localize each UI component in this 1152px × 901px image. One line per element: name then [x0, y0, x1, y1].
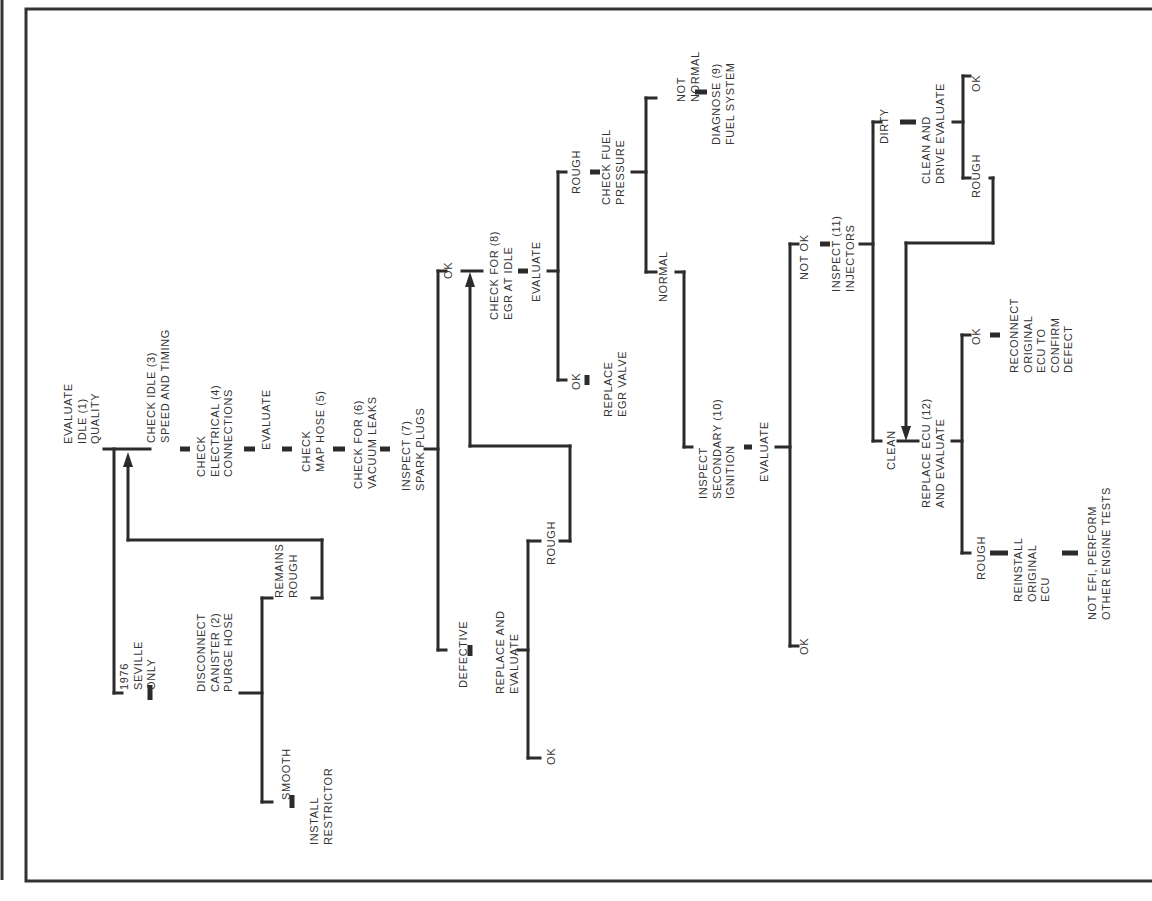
- node-label-n_smooth: SMOOTH: [280, 748, 292, 800]
- node-label-n11: INSPECT (11)INJECTORS: [830, 216, 856, 292]
- node-label-n12: REPLACE ECU (12)AND EVALUATE: [920, 398, 946, 508]
- node-label-n_rough_dirty: ROUGH: [970, 154, 982, 198]
- node-label-n_ok7: OK: [442, 262, 454, 279]
- node-label-n_notok: NOT OK: [798, 234, 810, 280]
- node-label-n_fuel: CHECK FUELPRESSURE: [600, 129, 626, 205]
- node-label-n8: CHECK FOR (8)EGR AT IDLE: [488, 231, 514, 320]
- node-label-n_eval10: EVALUATE: [758, 421, 770, 482]
- node-label-n_clean_drive: CLEAN ANDDRIVE EVALUATE: [920, 83, 946, 184]
- node-label-n_dirty: DIRTY: [878, 108, 890, 144]
- node-label-n4: CHECKELECTRICAL (4)CONNECTIONS: [195, 385, 234, 477]
- node-label-n_ok12: OK: [970, 328, 982, 345]
- node-label-n_ok7b: OK: [545, 748, 557, 765]
- node-label-n10: INSPECTSECONDARY (10)IGNITION: [697, 399, 736, 499]
- node-label-n_notnormal: NOTNORMAL: [675, 51, 701, 102]
- node-label-n_rough12: ROUGH: [975, 536, 987, 580]
- node-label-n6: CHECK FOR (6)VACUUM LEAKS: [352, 396, 378, 489]
- node-label-n_ok8: OK: [570, 373, 582, 390]
- node-label-n_remains: REMAINSROUGH: [273, 544, 299, 598]
- node-label-n3: CHECK IDLE (3)SPEED AND TIMING: [145, 329, 171, 443]
- node-label-n_clean: CLEAN: [885, 430, 897, 470]
- node-label-n_eval1: EVALUATE: [260, 389, 272, 450]
- node-label-n_rough7: ROUGH: [545, 521, 557, 565]
- node-label-n_restrictor: INSTALLRESTRICTOR: [308, 768, 334, 845]
- node-label-n_replace: REPLACE ANDEVALUATE: [494, 610, 520, 694]
- node-label-n_notefi: NOT EFI, PERFORMOTHER ENGINE TESTS: [1086, 487, 1112, 620]
- node-label-n_ok10: OK: [798, 638, 810, 655]
- node-label-n7: INSPECT (7)SPARK PLUGS: [400, 408, 426, 491]
- page-border: [2, 0, 1152, 881]
- node-label-n_seville: 1976SEVILLEONLY: [118, 641, 157, 690]
- node-label-n_reconnect: RECONNECTORIGINALECU TOCONFIRMDEFECT: [1008, 298, 1074, 373]
- node-label-n_normal: NORMAL: [657, 251, 669, 302]
- node-label-n1: EVALUATEIDLE (1)QUALITY: [62, 383, 101, 444]
- node-label-n_ok_dirty: OK: [970, 75, 982, 92]
- node-label-n2: DISCONNECTCANISTER (2)PURGE HOSE: [195, 613, 234, 692]
- node-label-n_rough8: ROUGH: [570, 150, 582, 194]
- node-labels: EVALUATEIDLE (1)QUALITY1976SEVILLEONLYDI…: [62, 51, 1112, 845]
- node-label-n_egr: REPLACEEGR VALVE: [602, 351, 628, 417]
- node-label-n_eval8: EVALUATE: [530, 241, 542, 302]
- node-label-n9: DIAGNOSE (9)FUEL SYSTEM: [710, 62, 736, 145]
- node-label-n_def: DEFECTIVE: [457, 621, 469, 688]
- node-label-n_reinstall: REINSTALLORIGINALECU: [1012, 538, 1051, 603]
- troubleshooting-diagram: EVALUATEIDLE (1)QUALITY1976SEVILLEONLYDI…: [0, 0, 1152, 901]
- node-label-n5: CHECKMAP HOSE (5): [300, 390, 326, 472]
